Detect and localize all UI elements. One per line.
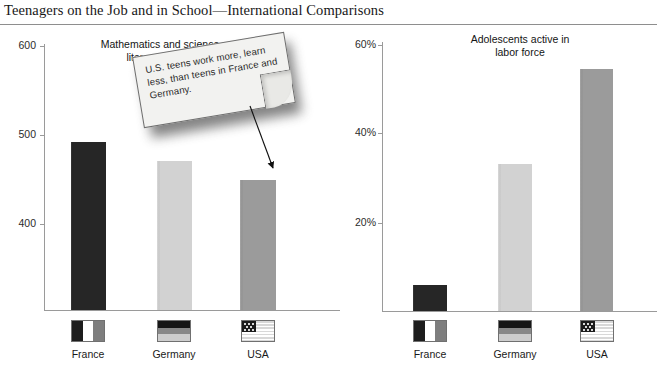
value-math-science-germany: 471 — [0, 0, 1, 1]
chart-title-labor-force: Adolescents active in labor force — [455, 33, 585, 59]
bar-math-science-usa — [240, 180, 276, 310]
y-axis-math-science — [44, 44, 45, 311]
value-math-science-usa: 450 — [0, 0, 1, 1]
chart-title-line2: labor force — [455, 46, 585, 59]
y-tick-label-600: 600 — [0, 39, 36, 51]
y-tick-label-40pct: 40% — [334, 126, 376, 138]
country-label-france-right: France — [395, 348, 465, 360]
x-axis-math-science — [44, 310, 340, 311]
value-math-science-france: 492 — [0, 0, 1, 1]
flag-usa-icon — [241, 320, 275, 342]
country-label-germany-left: Germany — [139, 348, 209, 360]
y-axis-labor-force — [382, 42, 383, 312]
flag-france-icon — [413, 320, 447, 342]
chart-title-line1: Adolescents active in — [455, 33, 585, 46]
x-axis-labor-force — [382, 311, 657, 312]
figure-root: Teenagers on the Job and in School—Inter… — [0, 0, 657, 365]
chart-panel-math-science: Mathematics and science literacy scores … — [0, 0, 345, 365]
bar-math-science-germany — [157, 161, 192, 310]
callout-note: U.S. teens work more, learn less, than t… — [133, 40, 323, 150]
country-label-usa-left: USA — [223, 348, 293, 360]
y-tick-500 — [40, 135, 45, 136]
flag-usa-icon — [580, 320, 614, 342]
bar-labor-force-france — [413, 285, 447, 311]
country-label-france-left: France — [53, 348, 123, 360]
bar-labor-force-germany — [498, 164, 532, 311]
flag-germany-icon — [157, 320, 191, 342]
y-tick-label-20pct: 20% — [334, 216, 376, 228]
y-tick-400 — [40, 224, 45, 225]
y-tick-600 — [40, 46, 45, 47]
y-tick-label-500: 500 — [0, 128, 36, 140]
flag-france-icon — [71, 320, 105, 342]
y-tick-label-400: 400 — [0, 217, 36, 229]
country-label-germany-right: Germany — [480, 348, 550, 360]
flag-germany-icon — [498, 320, 532, 342]
bar-math-science-france — [71, 142, 106, 310]
y-tick-label-60pct: 60% — [334, 38, 376, 50]
chart-panel-labor-force: Adolescents active in labor force 60% 40… — [336, 0, 657, 365]
value-labor-force-france: 6 — [336, 0, 337, 1]
y-tick-40pct — [378, 133, 383, 134]
callout-arrow-icon — [133, 40, 323, 170]
value-labor-force-germany: 33 — [336, 0, 337, 1]
country-label-usa-right: USA — [562, 348, 632, 360]
value-labor-force-usa: 54.5 — [336, 0, 337, 1]
y-tick-60pct — [378, 45, 383, 46]
bar-labor-force-usa — [580, 69, 613, 311]
y-tick-20pct — [378, 223, 383, 224]
